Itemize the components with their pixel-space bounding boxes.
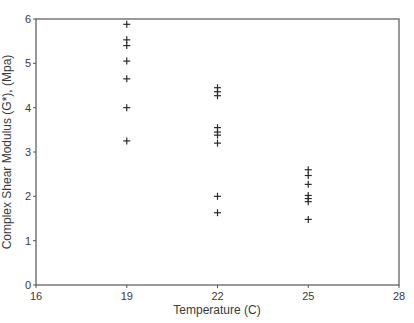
- y-tick-label: 4: [25, 102, 31, 114]
- plus-marker: [214, 209, 221, 216]
- x-tick-label: 19: [121, 290, 133, 302]
- y-tick-label: 1: [25, 235, 31, 247]
- plus-marker: [214, 92, 221, 99]
- plus-marker: [305, 216, 312, 223]
- plus-marker: [305, 172, 312, 179]
- y-tick-label: 5: [25, 57, 31, 69]
- plus-marker: [123, 137, 130, 144]
- y-axis-label: Complex Shear Modulus (G*), (Mpa): [0, 55, 14, 250]
- y-tick-label: 2: [25, 190, 31, 202]
- plus-marker: [305, 198, 312, 205]
- plus-marker: [214, 140, 221, 147]
- plot-border: [36, 19, 399, 285]
- y-axis-ticks: 0123456: [25, 13, 36, 291]
- plus-marker: [214, 132, 221, 139]
- x-axis-label: Temperature (C): [173, 303, 260, 317]
- scatter-plot: 0123456 1619222528 Temperature (C) Compl…: [0, 0, 414, 323]
- plus-marker: [123, 42, 130, 49]
- plot-frame: [36, 19, 399, 285]
- plus-marker: [123, 58, 130, 65]
- plus-marker: [214, 193, 221, 200]
- y-tick-label: 6: [25, 13, 31, 25]
- x-tick-label: 22: [211, 290, 223, 302]
- x-tick-label: 16: [30, 290, 42, 302]
- plus-marker: [123, 21, 130, 28]
- chart: 0123456 1619222528 Temperature (C) Compl…: [0, 0, 414, 323]
- x-tick-label: 28: [393, 290, 405, 302]
- plus-marker: [123, 104, 130, 111]
- plus-marker: [123, 75, 130, 82]
- x-axis-ticks: 1619222528: [30, 285, 405, 302]
- plus-marker: [305, 181, 312, 188]
- data-points: [123, 21, 312, 223]
- x-tick-label: 25: [302, 290, 314, 302]
- y-tick-label: 3: [25, 146, 31, 158]
